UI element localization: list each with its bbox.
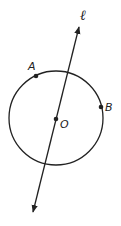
center-label: O [60,118,69,131]
center-o-dot [54,117,59,122]
point-a-label: A [27,60,36,73]
line-label: ℓ [80,7,86,23]
point-a-dot [34,74,39,79]
point-b-dot [99,105,104,110]
geometry-diagram: ℓ A B O [0,0,121,226]
point-b-label: B [105,101,113,114]
